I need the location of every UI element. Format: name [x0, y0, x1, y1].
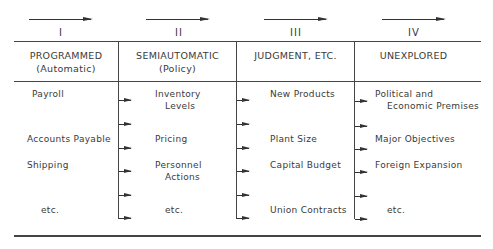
progression-arrow-2: [146, 19, 208, 20]
item-major-objectives: Major Objectives: [375, 133, 455, 145]
flow-arrow: [355, 219, 367, 220]
item-new-products: New Products: [270, 88, 335, 100]
progression-arrow-4: [382, 19, 444, 20]
flow-arrow: [237, 195, 249, 196]
progression-arrow-3: [264, 19, 326, 20]
column-numeral-2: II: [149, 27, 209, 38]
column-header-2: SEMIAUTOMATIC (Policy): [119, 49, 236, 75]
item-actions: Actions: [165, 171, 200, 183]
column-numeral-3: III: [266, 27, 326, 38]
column-divider-3: [354, 41, 355, 219]
item-economic-premises: Economic Premises: [387, 100, 479, 112]
flow-arrow: [237, 100, 249, 101]
item-inventory: Inventory: [155, 88, 201, 100]
flow-arrow: [355, 101, 367, 102]
flow-arrow: [119, 124, 131, 125]
item-personnel: Personnel: [155, 159, 202, 171]
column-title-2: SEMIAUTOMATIC: [119, 49, 236, 62]
flow-arrow: [119, 171, 131, 172]
column-header-4: UNEXPLORED: [355, 49, 472, 62]
item-shipping: Shipping: [27, 159, 69, 171]
item-etc-2: etc.: [165, 204, 183, 216]
flow-arrow: [119, 218, 131, 219]
column-title-1: PROGRAMMED: [14, 49, 118, 62]
item-payroll: Payroll: [32, 88, 64, 100]
item-foreign-expansion: Foreign Expansion: [375, 159, 463, 171]
column-subtitle-2: (Policy): [119, 62, 236, 75]
item-union-contracts: Union Contracts: [270, 204, 347, 216]
item-etc-1: etc.: [41, 204, 59, 216]
column-header-1: PROGRAMMED (Automatic): [14, 49, 118, 75]
column-numeral-1: I: [31, 27, 91, 38]
flow-arrow: [237, 148, 249, 149]
column-divider-2: [236, 41, 237, 219]
column-subtitle-1: (Automatic): [14, 62, 118, 75]
item-accounts-payable: Accounts Payable: [27, 133, 111, 145]
flow-arrow: [355, 126, 367, 127]
column-title-4: UNEXPLORED: [355, 49, 472, 62]
progression-arrow-1: [29, 19, 91, 20]
item-etc-4: etc.: [387, 204, 405, 216]
item-capital-budget: Capital Budget: [270, 159, 341, 171]
header-top-rule: [14, 41, 481, 42]
flow-arrow: [119, 148, 131, 149]
flow-arrow: [237, 171, 249, 172]
flow-arrow: [237, 124, 249, 125]
item-plant-size: Plant Size: [270, 133, 317, 145]
item-political: Political and: [375, 88, 433, 100]
flow-arrow: [119, 100, 131, 101]
flow-arrow: [237, 218, 249, 219]
flow-arrow: [355, 149, 367, 150]
column-numeral-4: IV: [384, 27, 444, 38]
item-pricing: Pricing: [155, 133, 187, 145]
flow-arrow: [119, 195, 131, 196]
column-header-3: JUDGMENT, ETC.: [237, 49, 354, 62]
table-bottom-rule: [14, 235, 481, 237]
header-bottom-rule: [14, 81, 481, 82]
item-levels: Levels: [165, 100, 195, 112]
flow-arrow: [355, 196, 367, 197]
column-title-3: JUDGMENT, ETC.: [237, 49, 354, 62]
flow-arrow: [355, 172, 367, 173]
